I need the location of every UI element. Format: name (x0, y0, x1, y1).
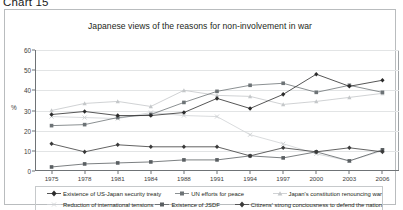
x-tick-label: 1991 (210, 175, 224, 182)
legend-row: Existence of US-Japan security treaty UN… (36, 188, 382, 199)
legend-label: Citizens' strong conciousness to defend … (251, 202, 382, 208)
legend-item-us-japan-treaty[interactable]: Existence of US-Japan security treaty (47, 188, 173, 199)
data-point (49, 141, 53, 146)
data-point (215, 158, 219, 162)
legend-label: Existence of JSDF (171, 202, 219, 208)
legend-item-reduction-tensions[interactable]: Reduction of international tensions (47, 199, 153, 210)
data-point (380, 78, 384, 83)
data-point (182, 145, 186, 150)
chart-screenshot: Chart 15 Japanese views of the reasons f… (0, 0, 403, 210)
x-tick-label: 1997 (276, 175, 290, 182)
data-point (182, 158, 186, 162)
data-point (83, 109, 87, 114)
legend-symbol-triangle-light (273, 190, 287, 197)
series-layer (35, 50, 399, 171)
y-tick-label: 20 (24, 127, 31, 134)
x-tick-label: 1988 (177, 175, 191, 182)
data-point (281, 146, 285, 151)
data-point (314, 91, 318, 95)
data-point (314, 72, 318, 77)
figure-caption: Chart 15 (3, 0, 49, 8)
data-point (83, 162, 87, 166)
data-point (281, 92, 285, 97)
x-tick-label: 2003 (342, 175, 356, 182)
data-point (50, 165, 54, 169)
x-tick-label: 1981 (111, 175, 125, 182)
x-tick-mark (349, 171, 350, 174)
x-tick-mark (283, 171, 284, 174)
legend-symbol-square-dark (155, 201, 169, 208)
y-tick-label: 30 (24, 107, 31, 114)
data-point (116, 142, 120, 147)
legend-item-jsdf[interactable]: Existence of JSDF (155, 199, 232, 210)
x-tick-mark (382, 171, 383, 174)
chart-legend: Existence of US-Japan security treaty UN… (35, 186, 383, 210)
legend-label: Existence of US-Japan security treaty (63, 191, 161, 197)
data-point (49, 112, 53, 117)
legend-symbol-diamond-black (235, 201, 249, 208)
series-5 (50, 148, 385, 169)
legend-label: UN efforts for peace (191, 191, 244, 197)
legend-symbol-cross-light (47, 201, 61, 208)
x-tick-mark (183, 171, 184, 174)
y-tick-label: 60 (24, 47, 31, 54)
data-point (281, 81, 285, 85)
chart-frame: Japanese views of the reasons for non-in… (4, 9, 396, 205)
x-tick-mark (117, 171, 118, 174)
legend-item-un-efforts[interactable]: UN efforts for peace (175, 188, 270, 199)
x-tick-mark (84, 171, 85, 174)
data-point (248, 83, 252, 87)
x-tick-mark (150, 171, 151, 174)
y-tick-label: 10 (24, 147, 31, 154)
data-point (381, 91, 385, 95)
data-point (83, 150, 87, 155)
y-tick-label: 40 (24, 87, 31, 94)
data-point (215, 90, 219, 94)
legend-symbol-diamond-dark (47, 190, 61, 197)
legend-item-citizens-consciousness[interactable]: Citizens' strong conciousness to defend … (235, 199, 382, 210)
x-tick-mark (250, 171, 251, 174)
series-2 (50, 81, 385, 127)
legend-item-constitution[interactable]: Japan's constitution renouncing war (273, 188, 382, 199)
x-tick-label: 1975 (45, 175, 59, 182)
data-point (50, 124, 54, 128)
legend-symbol-square-gray (175, 190, 189, 197)
series-4 (50, 111, 385, 163)
series-line (52, 113, 383, 161)
data-point (248, 106, 252, 111)
x-tick-label: 1978 (78, 175, 92, 182)
x-tick-mark (217, 171, 218, 174)
data-point (149, 145, 153, 150)
data-point (83, 123, 87, 127)
legend-label: Reduction of international tensions (63, 202, 153, 208)
data-point (281, 156, 285, 160)
legend-row: Reduction of international tensions Exis… (36, 199, 382, 210)
y-tick-label: 0 (27, 168, 31, 175)
data-point (182, 88, 186, 92)
x-tick-mark (316, 171, 317, 174)
x-tick-label: 2000 (309, 175, 323, 182)
y-axis-label: % (11, 104, 17, 111)
x-tick-label: 1984 (144, 175, 158, 182)
data-point (182, 101, 186, 105)
series-6 (49, 141, 384, 158)
y-tick-label: 50 (24, 67, 31, 74)
x-tick-mark (51, 171, 52, 174)
chart-title: Japanese views of the reasons for non-in… (5, 21, 395, 31)
data-point (116, 161, 120, 165)
data-point (215, 145, 219, 150)
data-point (348, 159, 352, 163)
x-tick-label: 1994 (243, 175, 257, 182)
data-point (347, 146, 351, 151)
plot-area: 0102030405060 19751978198119841988199119… (35, 50, 399, 171)
x-tick-label: 2006 (376, 175, 390, 182)
legend-label: Japan's constitution renouncing war (289, 191, 382, 197)
data-point (149, 160, 153, 164)
